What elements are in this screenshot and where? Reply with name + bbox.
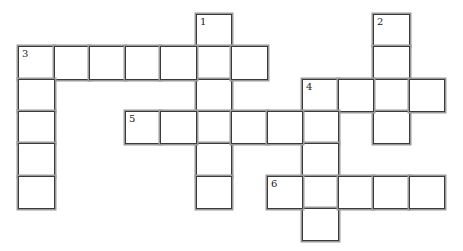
crossword-cell-r1-c10[interactable] [373,46,410,80]
crossword-cell-r3-c10[interactable] [373,111,410,144]
clue-number: 5 [129,113,135,124]
crossword-cell-r1-c4[interactable] [160,46,197,80]
crossword-cell-r5-c5[interactable] [196,176,232,209]
crossword-cell-r1-c1[interactable] [54,46,90,80]
crossword-cell-r5-c9[interactable] [338,176,374,209]
crossword-cell-r5-c10[interactable] [373,176,410,209]
crossword-cell-r3-c5[interactable] [196,111,232,144]
crossword-cell-r2-c5[interactable] [196,79,232,112]
crossword-cell-r3-c8[interactable] [302,111,339,144]
crossword-cell-r1-c5[interactable] [196,46,232,80]
crossword-cell-r2-c11[interactable] [409,79,445,112]
crossword-grid: 123456 [0,0,463,251]
crossword-cell-r1-c3[interactable] [125,46,161,80]
clue-number: 6 [271,178,277,189]
crossword-cell-r2-c0[interactable] [18,79,55,112]
clue-number: 1 [200,16,206,27]
crossword-cell-r3-c7[interactable] [267,111,303,144]
crossword-cell-r2-c10[interactable] [373,79,410,112]
crossword-cell-r3-c4[interactable] [160,111,197,144]
clue-number: 2 [377,16,383,27]
crossword-cell-r4-c8[interactable] [302,143,339,177]
crossword-cell-r2-c8[interactable]: 4 [302,79,339,112]
clue-number: 3 [22,48,28,59]
crossword-cell-r5-c7[interactable]: 6 [267,176,303,209]
crossword-cell-r1-c6[interactable] [231,46,268,80]
crossword-cell-r0-c10[interactable]: 2 [373,14,410,47]
crossword-cell-r5-c8[interactable] [302,176,339,209]
crossword-cell-r4-c5[interactable] [196,143,232,177]
crossword-cell-r2-c9[interactable] [338,79,374,112]
crossword-cell-r0-c5[interactable]: 1 [196,14,232,47]
crossword-cell-r5-c0[interactable] [18,176,55,209]
crossword-cell-r3-c0[interactable] [18,111,55,144]
crossword-cell-r6-c8[interactable] [302,208,339,241]
crossword-cell-r3-c6[interactable] [231,111,268,144]
crossword-cell-r5-c11[interactable] [409,176,445,209]
clue-number: 4 [306,81,312,92]
crossword-cell-r1-c2[interactable] [89,46,126,80]
crossword-cell-r4-c0[interactable] [18,143,55,177]
crossword-cell-r3-c3[interactable]: 5 [125,111,161,144]
crossword-cell-r1-c0[interactable]: 3 [18,46,55,80]
